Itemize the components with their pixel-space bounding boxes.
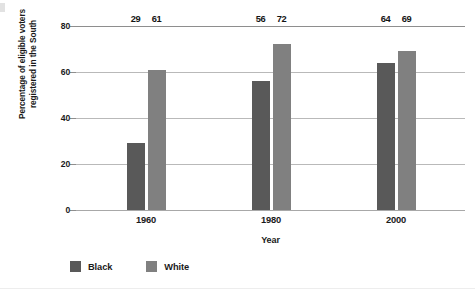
bar-wrap-2000-black: 64 <box>377 26 395 210</box>
bar-2000-black[interactable] <box>377 63 395 210</box>
bar-wrap-1960-white: 61 <box>148 26 166 210</box>
scan-artifact-corner <box>0 3 5 12</box>
ytick-label-0: 0 <box>26 205 70 215</box>
ytick-mark-20 <box>70 164 76 165</box>
xtick-label-1980: 1980 <box>221 215 321 225</box>
bar-wrap-1980-black: 56 <box>252 26 270 210</box>
bar-value-1960-black: 29 <box>131 14 141 24</box>
bar-1980-black[interactable] <box>252 81 270 210</box>
bar-value-2000-black: 64 <box>381 14 391 24</box>
xtick-label-1960: 1960 <box>96 215 196 225</box>
bar-group-2000: 64 69 2000 <box>346 26 446 210</box>
y-axis-title-line-2: registered in the South <box>28 20 39 108</box>
legend-label-white: White <box>164 262 189 272</box>
legend-swatch-black-icon <box>70 261 81 272</box>
bar-value-1960-white: 61 <box>152 14 162 24</box>
ytick-label-80: 80 <box>26 21 70 31</box>
bar-1980-white[interactable] <box>273 44 291 210</box>
chart-legend: Black White <box>70 261 189 272</box>
ytick-mark-40 <box>70 118 76 119</box>
bar-value-1980-black: 56 <box>256 14 266 24</box>
bar-value-1980-white: 72 <box>277 14 287 24</box>
legend-item-white[interactable]: White <box>146 261 189 272</box>
legend-item-black[interactable]: Black <box>70 261 112 272</box>
bar-wrap-1980-white: 72 <box>273 26 291 210</box>
x-axis-title: Year <box>76 235 465 245</box>
bar-wrap-1960-black: 29 <box>127 26 145 210</box>
bar-wrap-2000-white: 69 <box>398 26 416 210</box>
ytick-mark-0 <box>70 210 76 211</box>
bar-chart: Percentage of eligible voters registered… <box>0 0 475 292</box>
plot-area: 80 60 40 20 0 29 61 1960 <box>76 26 465 210</box>
bar-group-1980: 56 72 1980 <box>221 26 321 210</box>
ytick-mark-60 <box>70 72 76 73</box>
ytick-mark-80 <box>70 26 76 27</box>
bar-1960-black[interactable] <box>127 143 145 210</box>
legend-swatch-white-icon <box>146 261 157 272</box>
ytick-label-20: 20 <box>26 159 70 169</box>
bar-2000-white[interactable] <box>398 51 416 210</box>
bar-value-2000-white: 69 <box>402 14 412 24</box>
bar-group-1960: 29 61 1960 <box>96 26 196 210</box>
ytick-label-60: 60 <box>26 67 70 77</box>
scan-artifact-line <box>0 288 475 289</box>
xtick-label-2000: 2000 <box>346 215 446 225</box>
bar-1960-white[interactable] <box>148 70 166 210</box>
ytick-label-40: 40 <box>26 113 70 123</box>
legend-label-black: Black <box>88 262 112 272</box>
gridline-0-baseline <box>76 210 465 211</box>
